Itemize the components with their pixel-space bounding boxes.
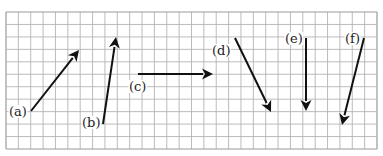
labels-group: (a)(b)(c)(d)(e)(f) <box>9 31 361 130</box>
arrow-shaft <box>235 38 267 103</box>
arrowhead-icon <box>301 100 312 111</box>
arrow-label-b: (b) <box>82 115 100 130</box>
arrow-label-e: (e) <box>285 31 303 46</box>
vector-diagram: (a)(b)(c)(d)(e)(f) <box>0 0 383 156</box>
arrow-label-f: (f) <box>345 31 360 46</box>
arrow-c <box>138 69 213 80</box>
arrow-label-c: (c) <box>129 79 146 94</box>
arrow-shaft <box>31 58 73 111</box>
arrow-label-d: (d) <box>212 43 230 58</box>
diagram-canvas: (a)(b)(c)(d)(e)(f) <box>0 0 383 156</box>
arrowhead-icon <box>68 50 79 62</box>
arrow-label-a: (a) <box>9 104 27 119</box>
arrow-a <box>31 50 79 111</box>
grid <box>6 12 377 149</box>
